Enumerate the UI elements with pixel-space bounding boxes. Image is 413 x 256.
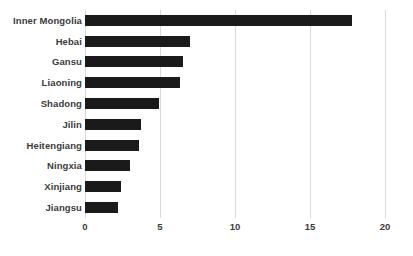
bar-row <box>85 52 385 73</box>
category-label: Heitengiang <box>0 135 82 156</box>
category-label: Jiangsu <box>0 197 82 218</box>
bar-chart: Inner Mongolia Hebai Gansu Liaoning Shad… <box>0 0 413 256</box>
value-tick-label: 0 <box>82 221 87 232</box>
bar-row <box>85 135 385 156</box>
bar <box>85 160 130 171</box>
bar <box>85 15 352 26</box>
category-label: Ningxia <box>0 156 82 177</box>
bar <box>85 202 118 213</box>
bar <box>85 140 139 151</box>
bar-row <box>85 72 385 93</box>
gridline <box>385 10 386 218</box>
category-label: Gansu <box>0 52 82 73</box>
bar <box>85 181 121 192</box>
bar-row <box>85 31 385 52</box>
bar <box>85 56 183 67</box>
bar <box>85 77 180 88</box>
category-label: Xinjiang <box>0 176 82 197</box>
value-axis: 05101520 <box>85 221 385 241</box>
category-label: Jilin <box>0 114 82 135</box>
category-label: Liaoning <box>0 72 82 93</box>
bar-series <box>85 10 385 218</box>
bar-row <box>85 156 385 177</box>
bar-row <box>85 93 385 114</box>
plot-area <box>85 10 385 218</box>
value-tick-label: 15 <box>305 221 316 232</box>
category-axis: Inner Mongolia Hebai Gansu Liaoning Shad… <box>0 10 82 218</box>
bar <box>85 36 190 47</box>
category-label: Inner Mongolia <box>0 10 82 31</box>
category-label: Shadong <box>0 93 82 114</box>
bar-row <box>85 197 385 218</box>
value-tick-label: 20 <box>380 221 391 232</box>
bar-row <box>85 176 385 197</box>
category-label: Hebai <box>0 31 82 52</box>
bar-row <box>85 10 385 31</box>
bar-row <box>85 114 385 135</box>
bar <box>85 119 141 130</box>
bar <box>85 98 159 109</box>
value-tick-label: 5 <box>157 221 162 232</box>
value-tick-label: 10 <box>230 221 241 232</box>
